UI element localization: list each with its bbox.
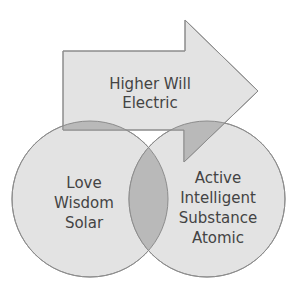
arrow-label-line-1: Higher Will (109, 75, 191, 93)
left-circle-label-line-3: Solar (65, 214, 104, 232)
arrow-label-line-2: Electric (122, 94, 178, 112)
right-circle-label-line-2: Intelligent (180, 189, 256, 207)
left-circle-label-line-1: Love (66, 174, 101, 192)
right-circle-label-line-3: Substance (179, 209, 257, 227)
venn-arrow-diagram: Higher Will Electric Love Wisdom Solar A… (0, 0, 302, 290)
right-circle-label-line-1: Active (195, 169, 241, 187)
right-circle-label-line-4: Atomic (192, 229, 244, 247)
left-circle-label-line-2: Wisdom (54, 194, 114, 212)
